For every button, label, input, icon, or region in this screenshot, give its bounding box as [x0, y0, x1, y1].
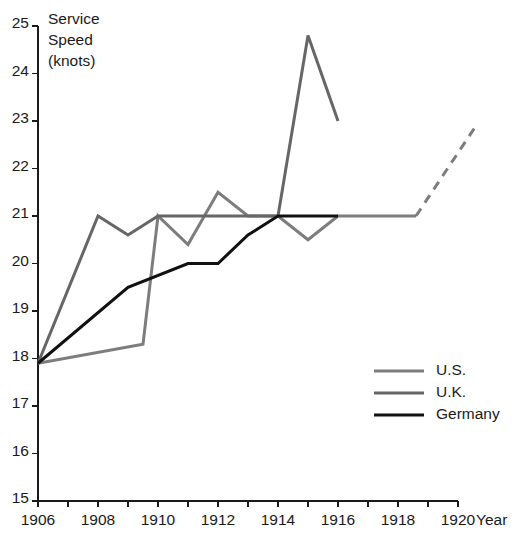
x-tick-label: 1916 [321, 511, 355, 528]
y-axis-title-line: (knots) [48, 52, 95, 69]
y-tick-label: 23 [12, 109, 29, 126]
x-tick-label: 1906 [21, 511, 55, 528]
legend-label-uk: U.K. [436, 383, 466, 400]
legend-label-us: U.S. [436, 361, 466, 378]
x-tick-label: 1912 [201, 511, 235, 528]
x-tick-label: 1918 [381, 511, 415, 528]
chart-canvas: 1516171819202122232425 19061908191019121… [0, 0, 525, 544]
y-tick-label: 19 [12, 299, 29, 316]
y-tick-label: 16 [12, 442, 29, 459]
x-tick-label: 1908 [81, 511, 115, 528]
y-tick-label: 24 [12, 62, 30, 79]
x-tick-label: 1920 [441, 511, 476, 528]
y-tick-label: 18 [12, 347, 29, 364]
series-layer [38, 36, 476, 364]
x-axis: 19061908191019121914191619181920 [21, 501, 476, 528]
y-axis-title-line: Speed [48, 31, 93, 48]
y-tick-label: 22 [12, 157, 29, 174]
y-tick-label: 25 [12, 14, 29, 31]
y-tick-label: 20 [12, 252, 30, 269]
x-tick-label: 1910 [141, 511, 176, 528]
series-line-us [38, 192, 416, 363]
series-projection-us [416, 126, 476, 216]
y-axis: 1516171819202122232425 [12, 14, 38, 506]
chart-legend: U.S.U.K.Germany [374, 361, 500, 422]
series-line-germany [38, 216, 338, 363]
y-tick-label: 17 [12, 394, 29, 411]
y-tick-label: 15 [12, 489, 29, 506]
y-tick-label: 21 [12, 204, 29, 221]
x-tick-label: 1914 [261, 511, 296, 528]
service-speed-line-chart: 1516171819202122232425 19061908191019121… [0, 0, 525, 544]
axis-titles: ServiceSpeed(knots)Year [48, 10, 507, 528]
y-axis-title-line: Service [48, 10, 100, 27]
legend-label-germany: Germany [436, 405, 500, 422]
series-line-uk [38, 36, 338, 364]
x-axis-title: Year [476, 511, 507, 528]
